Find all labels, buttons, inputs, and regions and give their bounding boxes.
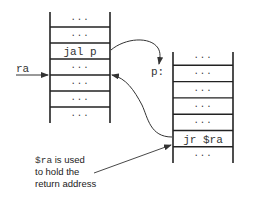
right-cell: ... [193,100,212,110]
right-memory-stack: ...............jr $ra... [173,51,233,163]
left-cell: ... [70,29,89,39]
ra-label: ra [16,63,30,75]
left-cell: jal p [63,46,96,58]
left-cell: ... [70,61,89,71]
p-label: p: [151,66,164,78]
return-arrow [112,75,172,137]
call-arrow [111,40,160,64]
left-cell: ... [70,13,89,23]
annotation-text: $ra is used to hold the return address [35,154,97,189]
left-cell: ... [70,109,89,119]
annotation-pointer-arrow [94,145,171,173]
call-return-diagram: ......jal p............ ...............j… [0,0,253,199]
right-cell: ... [193,149,212,159]
right-cell: ... [193,67,212,77]
annotation-line2: to hold the [35,166,79,177]
annotation-code: $ra [35,155,52,166]
left-cell: ... [70,77,89,87]
annotation-line1: is used [52,154,85,165]
right-cell: ... [193,51,212,61]
left-memory-stack: ......jal p............ [50,12,110,123]
left-cell: ... [70,93,89,103]
right-cell: ... [193,84,212,94]
annotation-line3: return address [35,178,97,189]
svg-text:$ra is used: $ra is used [35,154,85,166]
right-cell: ... [193,116,212,126]
right-cell: jr $ra [183,134,223,146]
